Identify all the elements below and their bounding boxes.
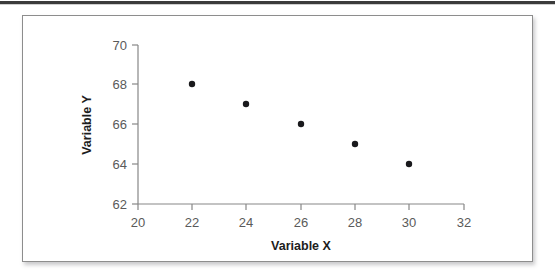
data-point xyxy=(189,81,195,87)
x-tick-label-24: 24 xyxy=(239,215,253,230)
x-tick-label-32: 32 xyxy=(457,215,471,230)
x-tick-label-28: 28 xyxy=(348,215,362,230)
y-tick-label-68: 68 xyxy=(113,77,127,92)
y-tick-label-70: 70 xyxy=(113,38,127,53)
top-divider-shadow xyxy=(0,4,555,5)
y-tick-label-62: 62 xyxy=(113,197,127,212)
figure-panel: 70 68 66 64 62 20 22 24 26 28 30 32 Vari… xyxy=(22,15,533,262)
x-tick-label-22: 22 xyxy=(185,215,199,230)
y-tick-label-66: 66 xyxy=(113,117,127,132)
data-point xyxy=(298,121,304,127)
x-tick-label-26: 26 xyxy=(294,215,308,230)
data-point xyxy=(352,141,358,147)
scatter-plot: 70 68 66 64 62 20 22 24 26 28 30 32 Vari… xyxy=(23,16,534,263)
data-point xyxy=(243,101,249,107)
scatter-plot-svg: 70 68 66 64 62 20 22 24 26 28 30 32 Vari… xyxy=(23,16,534,263)
x-tick-label-20: 20 xyxy=(131,215,145,230)
y-axis-ticks xyxy=(132,45,138,204)
data-point-group xyxy=(189,81,412,167)
data-point xyxy=(406,161,412,167)
x-axis-ticks xyxy=(138,204,464,210)
x-tick-label-30: 30 xyxy=(402,215,416,230)
y-axis-title: Variable Y xyxy=(80,95,94,155)
x-axis-title: Variable X xyxy=(271,239,331,253)
y-tick-label-64: 64 xyxy=(113,157,127,172)
